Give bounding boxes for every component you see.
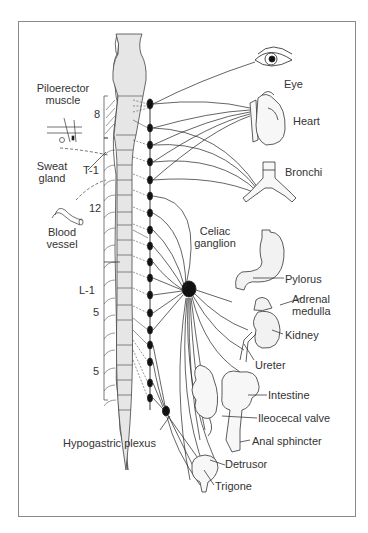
label-hypogastric-plexus: Hypogastric plexus	[63, 437, 156, 449]
label-ileocecal-valve: Ileocecal valve	[258, 412, 330, 424]
sympathetic-diagram	[0, 0, 368, 533]
label-adrenal-medulla: Adrenal medulla	[292, 293, 331, 317]
spinal-roots	[104, 100, 116, 406]
hypogastric-ganglion	[163, 406, 170, 416]
segment-braces	[104, 96, 108, 400]
label-segment-l1: L-1	[79, 284, 95, 296]
spinal-cord	[113, 34, 146, 470]
label-trigone: Trigone	[215, 480, 252, 492]
label-piloerector-muscle: Piloerector muscle	[34, 82, 92, 106]
label-segment-l5: 5	[93, 306, 99, 318]
label-sweat-gland: Sweat gland	[34, 160, 70, 184]
label-ureter: Ureter	[255, 359, 286, 371]
label-intestine: Intestine	[268, 389, 310, 401]
label-anal-sphincter: Anal sphincter	[252, 435, 322, 447]
label-segment-8: 8	[94, 108, 100, 120]
label-eye: Eye	[284, 78, 303, 90]
label-segment-t1: T-1	[83, 164, 99, 176]
intestine-icon	[192, 365, 259, 452]
label-blood-vessel: Blood vessel	[44, 226, 80, 250]
label-segment-12: 12	[89, 202, 101, 214]
label-bronchi: Bronchi	[285, 166, 322, 178]
label-segment-s5: 5	[93, 365, 99, 377]
label-kidney: Kidney	[285, 329, 319, 341]
label-detrusor: Detrusor	[225, 458, 267, 470]
stomach-icon	[236, 230, 284, 290]
label-heart: Heart	[293, 115, 320, 127]
label-pylorus: Pylorus	[285, 273, 322, 285]
heart-icon	[250, 92, 285, 146]
celiac-ganglion	[182, 281, 196, 297]
eye-icon	[255, 47, 292, 66]
kidney-icon	[240, 298, 280, 363]
label-celiac-ganglion: Celiac ganglion	[192, 225, 238, 249]
